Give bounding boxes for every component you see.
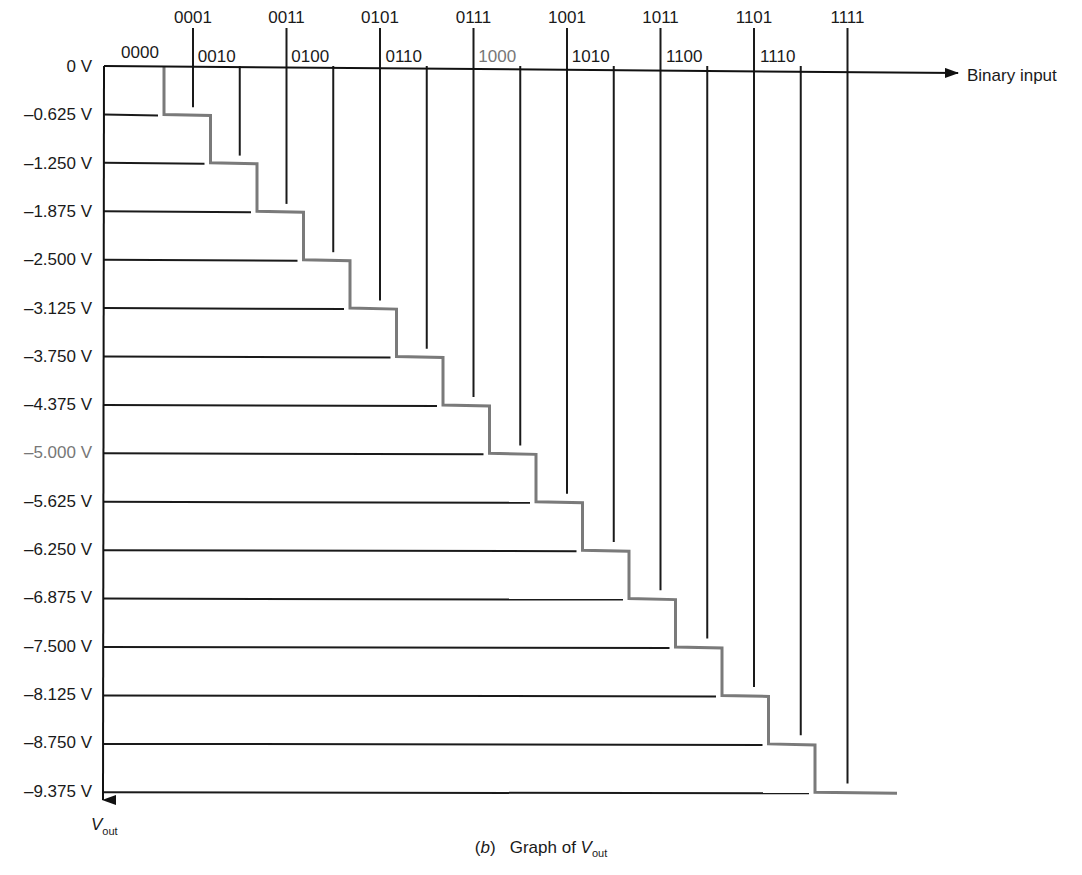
y-axis: [103, 66, 104, 800]
level-gridline-10: [104, 550, 577, 551]
caption-panel: (b): [475, 838, 496, 857]
y-tick-label-8: –5.000 V: [24, 443, 93, 462]
level-gridline-12: [104, 647, 670, 648]
level-gridline-14: [104, 744, 763, 745]
x-tick-label-1111: 1111: [830, 8, 864, 27]
x-tick-label-1101: 1101: [736, 8, 773, 27]
level-gridline-3: [104, 211, 251, 212]
x-tick-label-1100: 1100: [666, 47, 703, 66]
y-tick-label-12: –7.500 V: [24, 637, 93, 656]
level-gridline-8: [104, 453, 484, 454]
figure-caption: (b) Graph of Vout: [0, 838, 1082, 859]
level-gridlines: [104, 114, 809, 793]
y-axis-title-sub: out: [102, 825, 117, 837]
caption-var-sub: out: [592, 847, 607, 859]
y-axis-title: Vout: [91, 815, 118, 837]
x-axis: [104, 66, 958, 73]
staircase-series: [164, 66, 897, 793]
level-gridline-6: [104, 357, 391, 358]
y-tick-label-10: –6.250 V: [24, 540, 93, 559]
x-tick-label-0101: 0101: [361, 8, 399, 27]
level-gridline-5: [104, 308, 344, 309]
y-tick-label-4: –2.500 V: [24, 250, 93, 269]
y-tick-label-14: –8.750 V: [24, 733, 93, 752]
x-tick-label-0111: 0111: [456, 8, 491, 27]
y-tick-labels: 0 V–0.625 V–1.250 V–1.875 V–2.500 V–3.12…: [24, 57, 93, 801]
y-tick-label-2: –1.250 V: [24, 154, 93, 173]
x-tick-label-1010: 1010: [572, 47, 610, 66]
x-tick-label-1001: 1001: [548, 8, 586, 27]
level-gridline-2: [104, 163, 205, 164]
x-tick-label-0011: 0011: [268, 8, 305, 27]
x-tick-label-0000: 0000: [121, 43, 159, 62]
y-tick-label-3: –1.875 V: [24, 202, 93, 221]
x-tick-label-0100: 0100: [291, 47, 329, 66]
y-tick-label-9: –5.625 V: [24, 492, 93, 511]
x-tick-label-0110: 0110: [385, 47, 422, 66]
level-gridline-13: [104, 695, 716, 696]
y-tick-label-15: –9.375 V: [24, 782, 93, 801]
y-tick-label-0: 0 V: [66, 57, 92, 76]
x-tick-label-1110: 1110: [760, 47, 795, 66]
x-tick-label-1000: 1000: [478, 47, 516, 66]
x-tick-label-0010: 0010: [198, 47, 236, 66]
level-gridline-9: [104, 502, 530, 503]
caption-text: Graph of: [510, 838, 576, 857]
x-tick-label-1011: 1011: [642, 8, 679, 27]
x-tick-label-0001: 0001: [174, 8, 212, 27]
level-gridline-4: [104, 260, 298, 261]
level-gridline-15: [104, 792, 809, 793]
level-gridline-7: [104, 405, 437, 406]
vout-staircase-chart: Binary input Vout 0 V–0.625 V–1.250 V–1.…: [0, 0, 1082, 875]
level-gridline-1: [104, 114, 158, 115]
y-tick-label-11: –6.875 V: [24, 588, 93, 607]
x-axis-title: Binary input: [967, 66, 1057, 85]
y-tick-label-6: –3.750 V: [24, 347, 93, 366]
y-tick-label-7: –4.375 V: [24, 395, 93, 414]
caption-var: V: [581, 838, 592, 857]
y-tick-label-1: –0.625 V: [24, 105, 93, 124]
y-tick-label-13: –8.125 V: [24, 685, 93, 704]
level-gridline-11: [104, 599, 623, 600]
y-tick-label-5: –3.125 V: [24, 299, 93, 318]
